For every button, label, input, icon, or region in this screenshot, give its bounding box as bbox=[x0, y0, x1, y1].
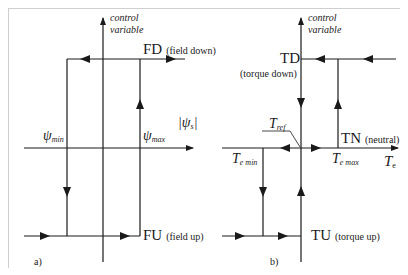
control-variable-label-b-2: variable bbox=[308, 25, 341, 35]
arrow-left-axis-b bbox=[280, 144, 290, 152]
td-label: TD bbox=[280, 51, 300, 66]
tu-label: TU (torque up) bbox=[311, 227, 380, 243]
fd-label: FD (field down) bbox=[143, 41, 216, 57]
psi-s-axis-label: |ψs| bbox=[178, 116, 198, 131]
arrow-right-tu-2 bbox=[278, 232, 288, 240]
control-variable-label-b-1: control bbox=[308, 13, 337, 23]
fu-label: FU (field up) bbox=[143, 227, 204, 243]
te-axis-label: Te bbox=[384, 154, 396, 170]
tref-label: Tref bbox=[269, 117, 285, 132]
arrow-up-tn bbox=[334, 99, 342, 109]
psi-min-label: ψmin bbox=[43, 129, 64, 144]
arrow-down-axis-b bbox=[297, 98, 305, 108]
caption-a: a) bbox=[34, 257, 42, 267]
caption-b: b) bbox=[270, 257, 278, 267]
arrow-down-te-min bbox=[259, 187, 267, 197]
te-min-label: Te min bbox=[232, 152, 257, 167]
te-max-label: Te max bbox=[332, 152, 359, 167]
arrow-up-axis-b bbox=[297, 186, 305, 196]
tn-label: TN (neutral) bbox=[341, 130, 399, 146]
arrow-right-axis-b bbox=[311, 144, 321, 152]
arrow-left-fd bbox=[80, 55, 90, 63]
tref-leader bbox=[262, 131, 300, 147]
arrow-left-td-2 bbox=[363, 55, 373, 63]
control-variable-label-a-1: control bbox=[110, 13, 139, 23]
control-variable-label-a-2: variable bbox=[110, 25, 143, 35]
arrow-left-td-1 bbox=[315, 55, 325, 63]
psi-max-label: ψmax bbox=[143, 129, 165, 144]
arrow-right-tu-1 bbox=[235, 232, 245, 240]
td-desc: (torque down) bbox=[240, 69, 297, 79]
arrow-up-psi-max bbox=[136, 99, 144, 109]
arrow-down-psi-min bbox=[63, 187, 71, 197]
arrow-right-fu-1 bbox=[40, 232, 50, 240]
arrow-right-fu-2 bbox=[120, 232, 130, 240]
